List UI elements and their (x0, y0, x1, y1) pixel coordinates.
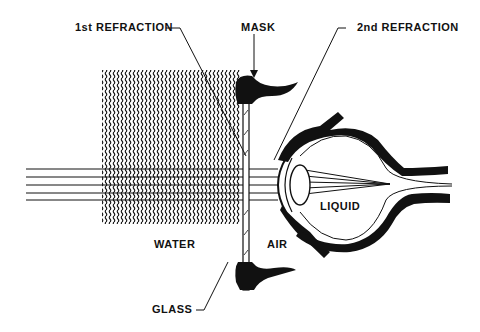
mask-bottom (235, 262, 296, 290)
label-second-refraction: 2nd REFRACTION (357, 21, 459, 33)
label-water: WATER (152, 238, 197, 250)
water-region (102, 70, 240, 224)
label-mask: MASK (241, 21, 275, 33)
label-first-refraction: 1st REFRACTION (75, 21, 173, 33)
label-glass: GLASS (152, 303, 192, 315)
label-air: AIR (267, 238, 287, 250)
mask-top (235, 76, 298, 104)
lens (290, 165, 310, 205)
eye-lower-wall (280, 206, 330, 258)
refraction-diagram (0, 0, 480, 332)
glass-plate (243, 100, 249, 290)
label-liquid: LIQUID (320, 200, 360, 212)
